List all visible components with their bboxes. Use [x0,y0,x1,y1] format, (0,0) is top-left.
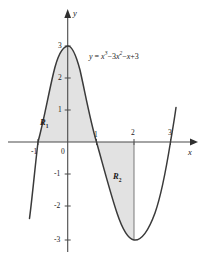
y-tick-label-1: 1 [58,106,62,114]
x-axis-label: x [188,148,192,157]
y-tick-label-neg1: -1 [54,170,60,178]
x-tick-label-neg1: -1 [31,148,37,156]
equation-term4: 3 [135,52,139,61]
region-label-r1-sub: 1 [46,123,49,129]
figure-container: -1 0 1 2 3 3 2 1 -1 -2 -3 x y R1 R2 y = … [0,0,207,255]
equation-annotation: y = x3−3x2−x+3 [89,51,139,61]
y-axis-label: y [73,9,77,18]
plot-svg [0,0,207,255]
x-tick-label-1: 1 [94,131,98,139]
x-tick-label-3: 3 [168,129,172,137]
region-label-r1: R1 [40,118,48,129]
x-tick-label-2: 2 [131,129,135,137]
region-label-r2: R2 [113,172,121,183]
region-label-r2-sub: 2 [119,177,122,183]
y-tick-label-2: 2 [58,74,62,82]
y-tick-label-neg3: -3 [54,236,60,244]
x-tick-label-0: 0 [61,148,65,156]
y-tick-label-neg2: -2 [54,202,60,210]
shaded-region-r2 [97,142,135,240]
y-tick-label-3: 3 [58,42,62,50]
